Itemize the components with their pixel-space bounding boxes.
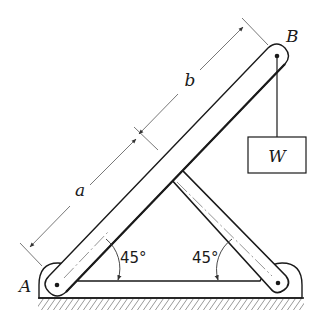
angle-right-label: 45°	[192, 249, 219, 267]
point-b-label: B	[285, 26, 299, 46]
point-a-label: A	[17, 276, 31, 296]
dim-b-label: b	[185, 70, 196, 90]
pin-right-icon	[276, 281, 281, 286]
angle-left-label: 45°	[120, 249, 147, 267]
strut	[170, 168, 289, 293]
pin-a-icon	[55, 283, 60, 288]
angle-arc-right	[217, 239, 232, 280]
mechanics-diagram: W a b 45° 45° A B	[0, 0, 328, 333]
ground-hatching	[38, 299, 304, 310]
weight-label: W	[268, 146, 287, 166]
pin-b-icon	[275, 54, 280, 59]
dim-a-label: a	[75, 180, 85, 200]
